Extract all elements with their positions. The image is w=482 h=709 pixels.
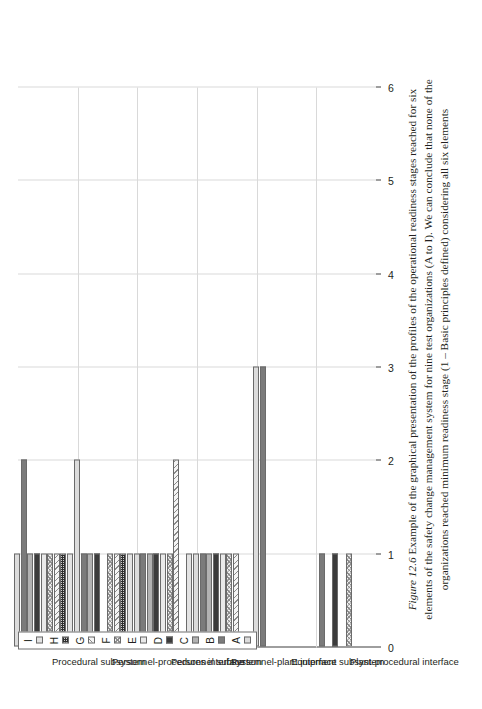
bar-a-2 (74, 459, 80, 646)
figure-caption: Figure 12.6 Example of the graphical pre… (404, 69, 452, 629)
legend-swatch-a (244, 637, 251, 644)
figure-page: Readiness stage reached Elements of the … (0, 0, 482, 709)
legend-item-f: F (102, 635, 121, 645)
axis-tick-label: 4 (379, 268, 403, 280)
legend-label: I (24, 635, 34, 645)
axis-tick-label: 3 (379, 361, 403, 373)
legend-label: G (76, 635, 86, 645)
axis-tick-label: 6 (379, 81, 403, 93)
legend-item-h: H (50, 635, 69, 645)
caption-body: Example of the graphical presentation of… (406, 79, 450, 619)
legend-swatch-i (36, 637, 43, 644)
legend-label: H (50, 635, 60, 645)
plot-canvas: 0123456Procedural subsystemPersonnel-pro… (18, 87, 376, 647)
legend-swatch-f (114, 637, 121, 644)
caption-label: Figure 12.6 (406, 554, 418, 610)
legend-label: F (102, 635, 112, 645)
legend-swatch-h (62, 637, 69, 644)
legend-swatch-d (166, 637, 173, 644)
legend-item-a: A (232, 635, 251, 645)
bar-b-5 (260, 366, 266, 646)
bar-a-5 (253, 366, 259, 646)
axis-tick-label: 2 (379, 454, 403, 466)
category-separator (316, 87, 317, 647)
axis-tick-label: 5 (379, 174, 403, 186)
legend-label: D (154, 635, 164, 645)
legend-label: B (206, 635, 216, 645)
bar-f-6 (346, 553, 352, 646)
legend-item-e: E (128, 635, 147, 645)
legend-item-d: D (154, 635, 173, 645)
legend-swatch-b (218, 637, 225, 644)
bar-d-6 (332, 553, 338, 646)
plot-area: 0123456Procedural subsystemPersonnel-pro… (18, 87, 376, 647)
legend-label: A (232, 635, 242, 645)
chart-legend: ABCDEFGHI (18, 631, 257, 649)
legend-label: C (180, 635, 190, 645)
bar-b-1 (21, 459, 27, 646)
legend-swatch-e (140, 637, 147, 644)
legend-label: E (128, 635, 138, 645)
axis-tick-label: 1 (379, 548, 403, 560)
bar-g-3 (173, 459, 179, 646)
rotated-figure-container: Readiness stage reached Elements of the … (0, 0, 482, 709)
legend-item-g: G (76, 635, 95, 645)
bar-b-6 (319, 553, 325, 646)
category-label: Plant-procedural interface (350, 655, 459, 666)
legend-item-b: B (206, 635, 225, 645)
legend-item-i: I (24, 635, 43, 645)
legend-swatch-g (88, 637, 95, 644)
chart-figure: Readiness stage reached Elements of the … (0, 0, 482, 709)
legend-item-c: C (180, 635, 199, 645)
axis-tick-label: 0 (379, 641, 403, 653)
legend-swatch-c (192, 637, 199, 644)
